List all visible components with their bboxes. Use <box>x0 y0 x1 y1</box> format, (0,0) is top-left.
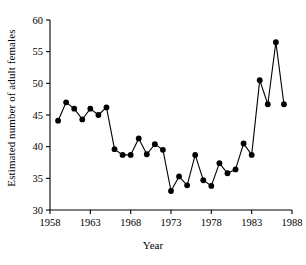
y-tick-label: 30 <box>33 205 44 216</box>
data-point <box>192 152 198 158</box>
data-point <box>265 101 271 107</box>
data-point <box>87 106 93 112</box>
y-axis-ticks: 30354045505560 <box>33 15 51 216</box>
data-point <box>184 182 190 188</box>
data-point <box>55 118 61 124</box>
data-point <box>249 152 255 158</box>
chart-figure: Estimated number of adult females 303540… <box>0 0 306 265</box>
data-series-line <box>58 42 284 191</box>
data-point <box>79 117 85 123</box>
data-point <box>208 183 214 189</box>
x-tick-label: 1983 <box>241 217 262 228</box>
data-point <box>273 39 279 45</box>
y-tick-label: 45 <box>33 110 44 121</box>
x-tick-label: 1958 <box>40 217 61 228</box>
x-axis-ticks: 1958196319681973197819831988 <box>40 210 303 228</box>
x-tick-label: 1978 <box>201 217 222 228</box>
data-point <box>176 174 182 180</box>
x-axis-title-text: Year <box>143 239 163 251</box>
x-tick-label: 1973 <box>161 217 182 228</box>
data-point <box>104 105 110 111</box>
data-point <box>152 141 158 147</box>
x-axis-title: Year <box>0 239 306 251</box>
data-point <box>136 136 142 142</box>
data-point-markers <box>55 39 287 194</box>
data-point <box>63 99 69 105</box>
y-tick-label: 60 <box>33 15 44 26</box>
x-tick-label: 1963 <box>80 217 101 228</box>
data-point <box>144 151 150 157</box>
data-point <box>112 146 118 152</box>
data-point <box>168 188 174 194</box>
y-tick-label: 55 <box>33 46 44 57</box>
data-point <box>217 160 223 166</box>
data-point <box>120 152 126 158</box>
x-tick-label: 1968 <box>120 217 141 228</box>
data-point <box>96 112 102 118</box>
y-tick-label: 35 <box>33 173 44 184</box>
data-point <box>241 141 247 147</box>
data-point <box>128 152 134 158</box>
data-point <box>225 170 231 176</box>
data-point <box>71 106 77 112</box>
data-point <box>281 101 287 107</box>
y-tick-label: 40 <box>33 141 44 152</box>
x-tick-label: 1988 <box>282 217 303 228</box>
data-point <box>233 167 239 173</box>
line-chart-plot: 30354045505560 1958196319681973197819831… <box>0 0 306 265</box>
y-tick-label: 50 <box>33 78 44 89</box>
data-point <box>160 147 166 153</box>
data-point <box>200 177 206 183</box>
data-point <box>257 77 263 83</box>
